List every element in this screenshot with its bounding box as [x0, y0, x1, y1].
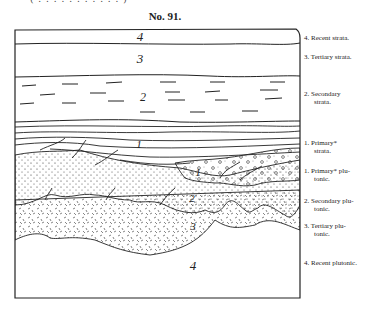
num-recent-strata: 4 — [137, 29, 144, 44]
secondary-strata-dashes — [20, 82, 285, 112]
legend-primary-plutonic: 1. Primary* plu-tonic. — [304, 167, 350, 183]
num-tertiary-strata: 3 — [136, 51, 144, 66]
section-body — [15, 43, 300, 255]
primary-plutonic-region — [175, 148, 300, 186]
num-primary-plutonic: 1 — [195, 166, 201, 178]
num-secondary-strata: 2 — [140, 90, 146, 104]
num-tertiary-plutonic: 3 — [189, 220, 196, 232]
legend-recent-plutonic: 4. Recent plutonic. — [304, 259, 357, 267]
legend-tertiary-plutonic: 3. Tertiary plu-tonic. — [304, 222, 346, 238]
strata-boundaries — [15, 43, 300, 122]
legend-recent-strata: 4. Recent strata. — [304, 34, 349, 42]
legend-primary-strata: 1. Primary*strata. — [304, 139, 337, 155]
num-primary-strata: 1 — [136, 138, 142, 150]
num-secondary-plutonic: 2 — [189, 192, 195, 204]
legend-secondary-plutonic: 2. Secondary plu-tonic. — [304, 197, 354, 213]
num-recent-plutonic: 4 — [190, 258, 197, 273]
legend-secondary-strata: 2. Secondarystrata. — [304, 90, 341, 106]
legend-tertiary-strata: 3. Tertiary strata. — [304, 53, 352, 61]
